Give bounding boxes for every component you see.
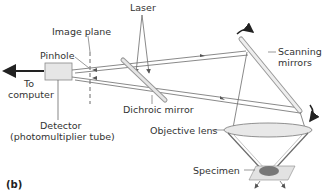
laser-beam-right: [142, 15, 149, 73]
objective-lens-label: Objective lens: [150, 125, 218, 136]
detector-label-1: Detector: [40, 120, 81, 131]
laser-beam-left: [136, 15, 142, 73]
detector-box: [45, 63, 72, 80]
to-computer-label-2: computer: [8, 89, 54, 100]
panel-label: (b): [6, 179, 22, 190]
beam-upper-2: [75, 55, 248, 73]
rotate-arrow-top: [237, 29, 253, 34]
pinhole-leader: [75, 57, 89, 68]
pinhole-label: Pinhole: [40, 50, 75, 61]
scanning-mirrors-label-2: mirrors: [278, 57, 312, 68]
specimen-label: Specimen: [193, 165, 240, 176]
laser-label: Laser: [130, 2, 156, 13]
dichroic-mirror-label: Dichroic mirror: [123, 104, 194, 115]
beam-upper-1: [72, 51, 246, 70]
image-plane-leader: [88, 36, 90, 52]
scanning-mirrors-label-1: Scanning: [278, 46, 322, 57]
detector-label-2: (photomultiplier tube): [10, 131, 115, 142]
image-plane-label: Image plane: [52, 26, 111, 37]
specimen-shape: [259, 166, 279, 176]
objective-lens-shape: [224, 123, 312, 137]
to-computer-label-1: To: [24, 78, 34, 89]
rotate-arrow-bottom: [310, 105, 313, 121]
